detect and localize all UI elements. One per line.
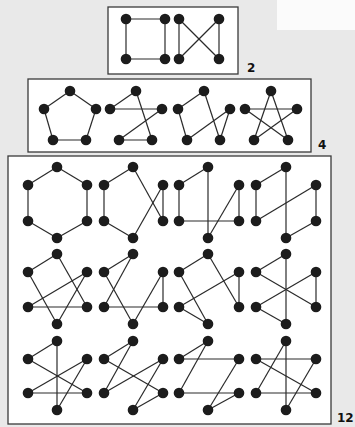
vertex-node (23, 267, 34, 278)
vertex-node (311, 267, 322, 278)
vertex-node (158, 354, 169, 365)
vertex-node (52, 249, 63, 260)
vertex-node (203, 249, 214, 260)
vertex-node (23, 302, 34, 313)
vertex-node (251, 302, 262, 313)
vertex-node (234, 180, 245, 191)
graph-enumeration-diagram (0, 0, 355, 427)
vertex-node (174, 302, 185, 313)
vertex-node (128, 249, 139, 260)
vertex-node (121, 54, 132, 65)
vertex-node (23, 388, 34, 399)
vertex-node (292, 104, 303, 115)
vertex-node (147, 135, 158, 146)
vertex-node (99, 388, 110, 399)
vertex-node (234, 388, 245, 399)
vertex-node (281, 336, 292, 347)
vertex-node (283, 135, 294, 146)
vertex-node (158, 216, 169, 227)
vertex-node (311, 302, 322, 313)
vertex-node (128, 162, 139, 173)
vertex-node (203, 405, 214, 416)
vertex-node (99, 354, 110, 365)
vertex-node (52, 162, 63, 173)
vertex-node (158, 267, 169, 278)
vertex-node (251, 388, 262, 399)
vertex-node (182, 135, 193, 146)
vertex-node (52, 233, 63, 244)
vertex-node (214, 54, 225, 65)
vertex-node (91, 104, 102, 115)
vertex-node (281, 405, 292, 416)
vertex-node (174, 180, 185, 191)
vertex-node (174, 388, 185, 399)
vertex-node (203, 319, 214, 330)
vertex-node (215, 135, 226, 146)
vertex-node (160, 14, 171, 25)
vertex-node (158, 180, 169, 191)
group-n5 (28, 79, 311, 152)
group-n4 (108, 7, 238, 74)
vertex-node (251, 267, 262, 278)
vertex-node (23, 180, 34, 191)
vertex-node (23, 354, 34, 365)
vertex-node (52, 319, 63, 330)
vertex-node (82, 180, 93, 191)
vertex-node (23, 216, 34, 227)
vertex-node (128, 336, 139, 347)
vertex-node (251, 180, 262, 191)
vertex-node (99, 302, 110, 313)
vertex-node (128, 233, 139, 244)
vertex-node (251, 216, 262, 227)
vertex-node (105, 104, 116, 115)
vertex-node (157, 104, 168, 115)
vertex-node (174, 354, 185, 365)
vertex-node (114, 135, 125, 146)
vertex-node (281, 233, 292, 244)
vertex-node (203, 162, 214, 173)
vertex-node (234, 354, 245, 365)
vertex-node (311, 354, 322, 365)
vertex-node (281, 319, 292, 330)
vertex-node (158, 302, 169, 313)
vertex-node (240, 104, 251, 115)
vertex-node (48, 135, 59, 146)
vertex-node (199, 86, 210, 97)
vertex-node (311, 216, 322, 227)
count-label-n4: 2 (247, 61, 255, 75)
vertex-node (266, 86, 277, 97)
vertex-node (203, 336, 214, 347)
vertex-node (99, 267, 110, 278)
vertex-node (52, 405, 63, 416)
vertex-node (82, 302, 93, 313)
vertex-node (174, 267, 185, 278)
vertex-node (251, 354, 262, 365)
vertex-node (82, 267, 93, 278)
vertex-node (52, 336, 63, 347)
vertex-node (128, 405, 139, 416)
vertex-node (121, 14, 132, 25)
vertex-node (128, 319, 139, 330)
vertex-node (234, 267, 245, 278)
vertex-node (281, 249, 292, 260)
vertex-node (249, 135, 260, 146)
vertex-node (174, 216, 185, 227)
vertex-node (160, 54, 171, 65)
vertex-node (234, 216, 245, 227)
vertex-node (174, 14, 185, 25)
vertex-node (281, 162, 292, 173)
vertex-node (99, 216, 110, 227)
vertex-node (214, 14, 225, 25)
vertex-node (203, 233, 214, 244)
vertex-node (173, 104, 184, 115)
vertex-node (131, 86, 142, 97)
vertex-node (81, 135, 92, 146)
vertex-node (82, 354, 93, 365)
vertex-node (311, 180, 322, 191)
vertex-node (39, 104, 50, 115)
vertex-node (158, 388, 169, 399)
vertex-node (311, 388, 322, 399)
vertex-node (225, 104, 236, 115)
count-label-n6: 12 (337, 411, 354, 425)
vertex-node (65, 86, 76, 97)
